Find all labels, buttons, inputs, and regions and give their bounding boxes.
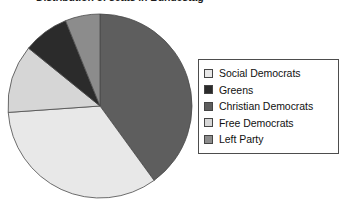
legend-swatch-christian-democrats — [204, 102, 213, 111]
legend-label-greens: Greens — [219, 84, 253, 96]
legend-item-free-democrats[interactable]: Free Democrats — [204, 115, 334, 132]
legend-item-greens[interactable]: Greens — [204, 82, 334, 99]
legend-label-free-democrats: Free Democrats — [219, 117, 294, 129]
pie-chart-svg — [0, 0, 200, 201]
pie-chart-screenshot: Distribution of seats in Bundestag Socia… — [0, 0, 351, 201]
legend-swatch-social-democrats — [204, 69, 213, 78]
legend-label-social-democrats: Social Democrats — [219, 67, 300, 79]
legend-item-social-democrats[interactable]: Social Democrats — [204, 65, 334, 82]
legend-swatch-greens — [204, 85, 213, 94]
legend-item-left-party[interactable]: Left Party — [204, 131, 334, 148]
legend-swatch-free-democrats — [204, 118, 213, 127]
pie-chart-plot-area — [0, 0, 200, 201]
legend-label-christian-democrats: Christian Democrats — [219, 100, 313, 112]
legend-label-left-party: Left Party — [219, 133, 263, 145]
chart-legend: Social Democrats Greens Christian Democr… — [198, 59, 339, 154]
legend-swatch-left-party — [204, 135, 213, 144]
pie-slice-group — [8, 14, 192, 198]
legend-item-christian-democrats[interactable]: Christian Democrats — [204, 98, 334, 115]
